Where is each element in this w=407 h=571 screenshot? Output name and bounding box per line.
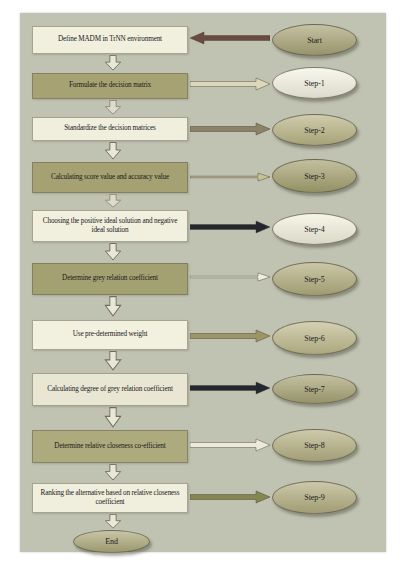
flowchart-panel: Define MADM in TrNN environment Start Fo… (20, 13, 386, 552)
arrow-right-icon (190, 490, 270, 504)
process-box-grey-relation-coefficient: Determine grey relation coefficient (32, 263, 188, 295)
arrow-right-icon (190, 270, 270, 284)
ellipse-step-5: Step-5 (272, 262, 357, 296)
down-arrow-icon (104, 296, 122, 317)
arrow-right-icon (190, 170, 270, 184)
down-arrow-icon (104, 194, 122, 208)
process-box-formulate-matrix: Formulate the decision matrix (32, 73, 188, 99)
down-arrow-icon (104, 407, 122, 428)
process-box-degree-grey-relation: Calculating degree of grey relation coef… (32, 373, 188, 406)
arrow-right-icon (190, 329, 270, 343)
ellipse-step-6: Step-6 (272, 321, 357, 355)
ellipse-step-9: Step-9 (272, 481, 357, 514)
arrow-left-icon (190, 31, 270, 45)
process-box-score-accuracy: Calculating score value and accuracy val… (32, 162, 188, 193)
ellipse-step-8: Step-8 (272, 429, 357, 462)
ellipse-step-7: Step-7 (272, 374, 357, 404)
arrow-right-icon (190, 438, 270, 452)
process-box-define-madm: Define MADM in TrNN environment (32, 26, 188, 54)
arrow-right-icon (190, 77, 270, 91)
ellipse-step-2: Step-2 (272, 114, 357, 146)
process-box-predetermined-weight: Use pre-determined weight (32, 320, 188, 350)
ellipse-step-4: Step-4 (272, 213, 357, 245)
process-box-relative-closeness: Determine relative closeness co-efficien… (32, 430, 188, 463)
arrow-right-icon (190, 220, 270, 234)
down-arrow-icon (104, 243, 122, 261)
ellipse-step-1: Step-1 (272, 67, 357, 99)
figure-canvas: Define MADM in TrNN environment Start Fo… (0, 0, 407, 571)
down-arrow-icon (104, 100, 122, 115)
process-box-standardize-matrices: Standardize the decision matrices (32, 117, 188, 141)
ellipse-end: End (73, 530, 150, 553)
down-arrow-icon (104, 464, 122, 481)
ellipse-step-3: Step-3 (272, 159, 357, 193)
process-box-ranking-alternative: Ranking the alternative based on relativ… (32, 483, 188, 513)
down-arrow-icon (104, 142, 122, 160)
down-arrow-icon (104, 55, 122, 71)
down-arrow-icon (104, 514, 122, 529)
process-box-ideal-solutions: Choosing the positive ideal solution and… (32, 210, 188, 242)
down-arrow-icon (104, 351, 122, 371)
ellipse-start: Start (272, 24, 357, 56)
arrow-right-icon (190, 122, 270, 136)
arrow-right-icon (190, 381, 270, 395)
